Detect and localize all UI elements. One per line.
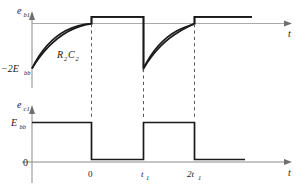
x-tick-label-2t1: 2t xyxy=(187,169,195,179)
x-tick-label-t1: t xyxy=(141,169,144,179)
lower-y-axis-arrowhead xyxy=(29,105,35,114)
rc-time-constant-label-r: R xyxy=(56,49,63,60)
x-tick-label-0: 0 xyxy=(88,169,93,179)
lower-high-level-label: E xyxy=(10,117,17,128)
upper-x-axis-label: t xyxy=(288,28,291,39)
waveform-figure: e b1 t −2E bb R 2 C 2 xyxy=(0,0,307,191)
upper-min-level-label-subscript: bb xyxy=(24,69,31,76)
lower-high-level-label-subscript: bb xyxy=(20,123,27,130)
lower-x-axis-label: t xyxy=(288,167,291,178)
x-tick-label-group: 0 t 1 2t 1 xyxy=(88,169,201,181)
lower-y-axis-label: e xyxy=(17,99,22,110)
x-tick-label-2t1-subscript: 1 xyxy=(198,174,201,181)
lower-y-axis-label-subscript: c1 xyxy=(24,105,30,112)
rc-time-constant-label-c: C xyxy=(68,49,75,60)
lower-zero-level-label: 0 xyxy=(23,157,28,168)
rc-time-constant-label-c-subscript: 2 xyxy=(76,55,80,62)
upper-t-axis-arrowhead xyxy=(284,21,292,27)
upper-plot-group: e b1 t −2E bb R 2 C 2 xyxy=(1,5,292,88)
lower-plot-group: e c1 E bb 0 t xyxy=(10,99,292,183)
figure-canvas: e b1 t −2E bb R 2 C 2 xyxy=(0,0,307,191)
upper-min-level-label: −2E xyxy=(1,63,19,74)
lower-t-axis-arrowhead xyxy=(284,159,292,165)
lower-waveform-ec1 xyxy=(32,123,245,160)
upper-y-axis-label: e xyxy=(17,5,22,16)
upper-y-axis-label-subscript: b1 xyxy=(24,11,31,18)
x-tick-label-t1-subscript: 1 xyxy=(146,174,149,181)
